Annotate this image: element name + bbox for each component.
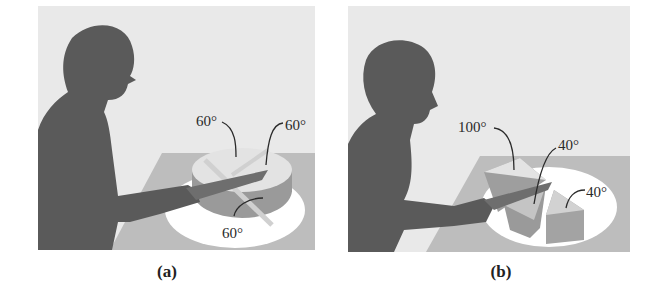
- cake-cutting-illustration-b: 100° 40° 40°: [334, 0, 668, 301]
- angle-label-a-1: 60°: [196, 113, 217, 129]
- angle-label-a-2: 60°: [285, 117, 306, 133]
- angle-label-a-3: 60°: [222, 225, 243, 241]
- caption-b: (b): [334, 262, 668, 282]
- panel-b: 100° 40° 40° (b): [334, 0, 668, 301]
- angle-label-b-2: 40°: [558, 137, 579, 153]
- angle-label-b-1: 100°: [458, 119, 487, 135]
- caption-a: (a): [0, 262, 334, 282]
- cake-cutting-illustration-a: 60° 60° 60°: [0, 0, 334, 301]
- angle-label-b-3: 40°: [586, 184, 607, 200]
- panel-a: 60° 60° 60° (a): [0, 0, 334, 301]
